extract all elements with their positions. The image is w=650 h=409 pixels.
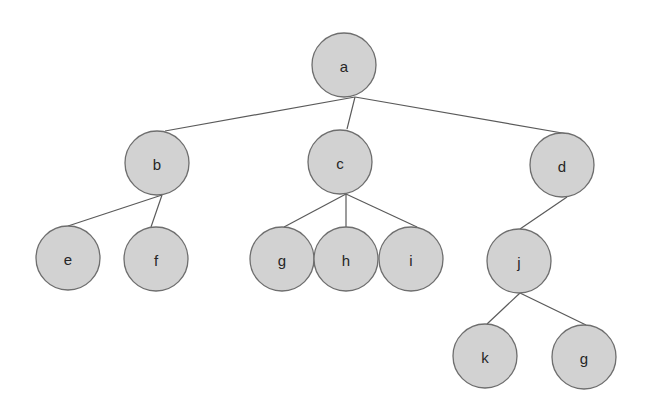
tree-node-b: b bbox=[125, 131, 189, 195]
node-label: b bbox=[153, 156, 161, 173]
node-label: c bbox=[336, 155, 344, 172]
node-label: k bbox=[481, 349, 489, 366]
tree-node-j: j bbox=[487, 229, 551, 293]
tree-node-g2: g bbox=[552, 325, 616, 389]
tree-node-i: i bbox=[379, 227, 443, 291]
tree-node-g: g bbox=[250, 227, 314, 291]
edge-a-b bbox=[165, 97, 355, 131]
node-label: i bbox=[409, 252, 412, 269]
tree-diagram: abcdefghijkg bbox=[0, 0, 650, 409]
node-label: h bbox=[342, 252, 350, 269]
tree-node-h: h bbox=[314, 227, 378, 291]
tree-node-c: c bbox=[308, 130, 372, 194]
tree-node-k: k bbox=[453, 324, 517, 388]
edge-d-j bbox=[520, 197, 567, 229]
node-label: a bbox=[340, 58, 349, 75]
edge-b-f bbox=[151, 195, 162, 227]
node-label: j bbox=[516, 254, 520, 271]
edge-a-c bbox=[347, 97, 355, 129]
node-label: d bbox=[558, 158, 566, 175]
edge-a-d bbox=[355, 97, 568, 134]
node-label: g bbox=[278, 252, 286, 269]
tree-node-f: f bbox=[124, 227, 188, 291]
node-label: g bbox=[580, 350, 588, 367]
tree-node-a: a bbox=[312, 33, 376, 97]
tree-node-e: e bbox=[36, 226, 100, 290]
node-label: e bbox=[64, 251, 72, 268]
tree-node-d: d bbox=[530, 133, 594, 197]
nodes-layer: abcdefghijkg bbox=[36, 33, 616, 389]
edge-b-e bbox=[68, 195, 162, 226]
edge-j-k bbox=[487, 293, 520, 324]
edge-c-g bbox=[284, 194, 346, 227]
edge-j-g2 bbox=[520, 293, 586, 325]
edge-c-i bbox=[346, 194, 417, 227]
